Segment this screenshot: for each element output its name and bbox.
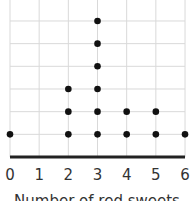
x-tick-label: 5 bbox=[151, 166, 161, 184]
data-dot bbox=[65, 108, 72, 115]
data-dot bbox=[7, 131, 14, 138]
x-tick-label: 2 bbox=[64, 166, 74, 184]
data-dot bbox=[94, 131, 101, 138]
x-tick-labels: 0123456 bbox=[5, 166, 190, 184]
data-dot bbox=[94, 18, 101, 25]
x-tick-label: 1 bbox=[34, 166, 44, 184]
data-dot bbox=[94, 86, 101, 93]
x-tick-label: 0 bbox=[5, 166, 15, 184]
data-dot bbox=[94, 108, 101, 115]
data-dot bbox=[123, 131, 130, 138]
data-dot bbox=[65, 86, 72, 93]
x-tick-label: 3 bbox=[93, 166, 103, 184]
data-dot bbox=[94, 63, 101, 70]
data-dot bbox=[94, 40, 101, 47]
data-dot bbox=[123, 108, 130, 115]
x-tick-label: 4 bbox=[122, 166, 132, 184]
x-tick-label: 6 bbox=[180, 166, 190, 184]
data-dot bbox=[65, 131, 72, 138]
data-dot bbox=[182, 131, 189, 138]
x-axis-title: Number of red sweets bbox=[14, 192, 180, 201]
data-dot bbox=[153, 108, 160, 115]
dot-plot: 0123456 Number of red sweets bbox=[0, 0, 195, 201]
data-dot bbox=[153, 131, 160, 138]
